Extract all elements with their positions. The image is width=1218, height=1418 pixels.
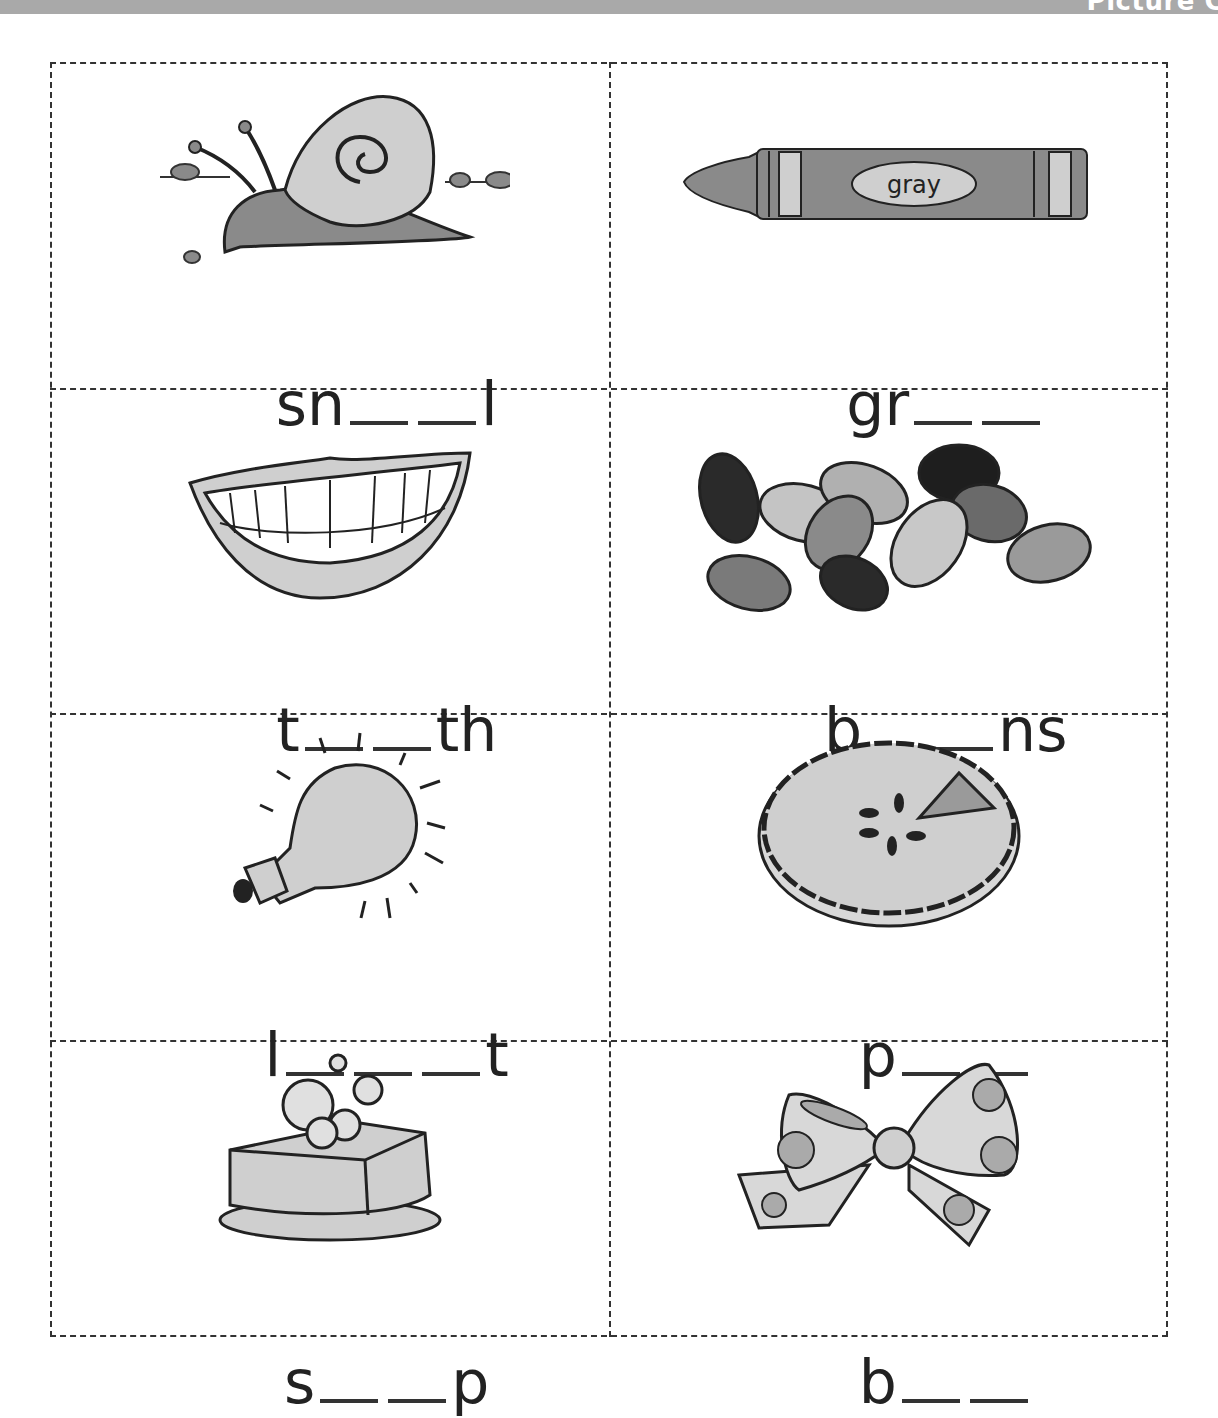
- card-crayon: gray gr: [609, 62, 1168, 388]
- light-bulb-icon: [195, 723, 465, 923]
- soap-icon: [200, 1045, 460, 1245]
- letter-blank[interactable]: [388, 1391, 446, 1403]
- card-light-bulb: lt: [50, 713, 609, 1039]
- pie-icon: [744, 728, 1034, 928]
- letter-blank[interactable]: [902, 1391, 960, 1403]
- header-title: Picture C: [1087, 0, 1218, 16]
- card-grid: snl gray gr tth: [50, 62, 1168, 1337]
- crayon-icon: gray: [679, 137, 1099, 237]
- card-teeth: tth: [50, 388, 609, 714]
- word-prefix: b: [859, 1347, 897, 1417]
- card-jelly-beans: bns: [609, 388, 1168, 714]
- card-soap: sp: [50, 1040, 609, 1366]
- card-snail: snl: [50, 62, 609, 388]
- word-prefix: s: [284, 1347, 315, 1417]
- crayon-label: gray: [886, 171, 940, 199]
- card-bow: b: [609, 1040, 1168, 1366]
- teeth-icon: [180, 438, 480, 608]
- word-suffix: p: [451, 1347, 489, 1417]
- card-pie: p: [609, 713, 1168, 1039]
- header-bar: Picture C: [0, 0, 1218, 14]
- bow-icon: [734, 1050, 1044, 1250]
- jelly-beans-icon: [679, 423, 1099, 613]
- word-prompt: sp: [50, 1262, 609, 1418]
- letter-blank[interactable]: [970, 1391, 1028, 1403]
- letter-blank[interactable]: [320, 1391, 378, 1403]
- snail-icon: [150, 82, 510, 282]
- word-prompt: b: [609, 1262, 1168, 1418]
